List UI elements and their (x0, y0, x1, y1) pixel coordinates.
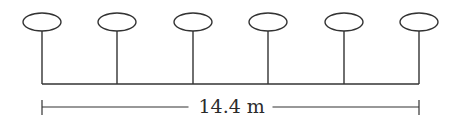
posts-group (23, 13, 438, 84)
lamp-head-icon (249, 13, 287, 31)
lamp-post (249, 13, 287, 84)
lamp-post (174, 13, 212, 84)
lamp-head-icon (98, 13, 136, 31)
lamp-head-icon (23, 13, 61, 31)
lamp-head-icon (400, 13, 438, 31)
lamp-post (400, 13, 438, 84)
lamp-post (23, 13, 61, 84)
dimension-label: 14.4 m (195, 95, 269, 117)
lamp-post (325, 13, 363, 84)
lamp-post (98, 13, 136, 84)
lamp-head-icon (174, 13, 212, 31)
lamp-head-icon (325, 13, 363, 31)
